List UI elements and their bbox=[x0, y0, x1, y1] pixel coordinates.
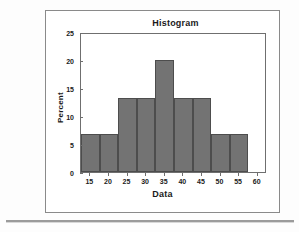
histogram-bar bbox=[155, 60, 174, 172]
figure-page: Histogram Percent 0510152025 15202530354… bbox=[0, 0, 299, 232]
y-tick-label: 5 bbox=[56, 142, 74, 149]
bottom-divider-shadow bbox=[6, 222, 294, 223]
figure-frame: Histogram Percent 0510152025 15202530354… bbox=[45, 10, 280, 213]
y-tick-mark bbox=[80, 173, 83, 174]
x-tick-mark bbox=[220, 173, 221, 176]
plot-area bbox=[80, 33, 266, 173]
x-tick-label: 55 bbox=[228, 178, 248, 185]
x-axis-title: Data bbox=[46, 189, 279, 199]
y-tick-mark bbox=[80, 89, 83, 90]
x-tick-label: 45 bbox=[191, 178, 211, 185]
x-tick-mark bbox=[164, 173, 165, 176]
y-tick-mark bbox=[80, 117, 83, 118]
x-tick-mark bbox=[257, 173, 258, 176]
x-tick-mark bbox=[108, 173, 109, 176]
histogram-bar bbox=[230, 134, 249, 172]
chart-title-row: Histogram bbox=[46, 18, 279, 28]
x-tick-label: 60 bbox=[247, 178, 267, 185]
histogram-bar bbox=[137, 98, 156, 172]
histogram-bar bbox=[211, 134, 230, 172]
histogram-bar bbox=[100, 134, 119, 172]
x-tick-label: 35 bbox=[154, 178, 174, 185]
histogram-bar bbox=[174, 98, 193, 172]
y-tick-label: 25 bbox=[56, 30, 74, 37]
y-tick-label: 0 bbox=[56, 170, 74, 177]
x-tick-label: 25 bbox=[117, 178, 137, 185]
x-tick-label: 40 bbox=[172, 178, 192, 185]
x-tick-mark bbox=[89, 173, 90, 176]
x-tick-label: 20 bbox=[98, 178, 118, 185]
x-tick-mark bbox=[182, 173, 183, 176]
chart-title: Histogram bbox=[152, 18, 198, 28]
x-tick-mark bbox=[145, 173, 146, 176]
y-tick-mark bbox=[80, 145, 83, 146]
y-tick-mark bbox=[80, 61, 83, 62]
x-tick-label: 15 bbox=[79, 178, 99, 185]
histogram-bar bbox=[81, 134, 100, 172]
y-tick-label: 20 bbox=[56, 58, 74, 65]
x-tick-mark bbox=[201, 173, 202, 176]
x-tick-label: 30 bbox=[135, 178, 155, 185]
x-tick-mark bbox=[238, 173, 239, 176]
histogram-bars bbox=[81, 34, 265, 172]
x-tick-label: 50 bbox=[210, 178, 230, 185]
y-tick-mark bbox=[80, 33, 83, 34]
histogram-bar bbox=[118, 98, 137, 172]
y-tick-label: 15 bbox=[56, 86, 74, 93]
x-tick-mark bbox=[127, 173, 128, 176]
y-tick-label: 10 bbox=[56, 114, 74, 121]
histogram-bar bbox=[193, 98, 212, 172]
